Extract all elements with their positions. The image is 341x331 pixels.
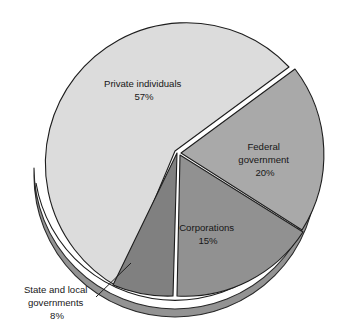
pie-chart-svg: Private individuals 57% Federal governme…	[0, 0, 341, 331]
pie-chart: Private individuals 57% Federal governme…	[0, 0, 341, 331]
label-federal-government-line2: government	[238, 154, 289, 165]
label-state-and-local-line2: governments	[28, 297, 84, 308]
label-federal-government-pct: 20%	[255, 167, 275, 178]
label-private-individuals-pct: 57%	[134, 91, 154, 102]
label-state-and-local-pct: 8%	[50, 310, 64, 321]
label-private-individuals-text: Private individuals	[104, 78, 182, 89]
label-state-and-local-governments: State and local governments 8%	[24, 284, 90, 321]
label-state-and-local-line1: State and local	[24, 284, 87, 295]
label-federal-government-line1: Federal	[247, 141, 280, 152]
label-corporations-pct: 15%	[198, 235, 218, 246]
label-corporations-text: Corporations	[179, 222, 234, 233]
